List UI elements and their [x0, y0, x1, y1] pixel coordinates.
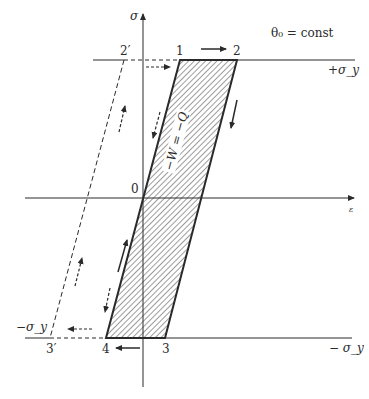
point-3-label: 3 [162, 342, 170, 356]
dashed-arrow-up-left-lower [75, 258, 82, 286]
strain-axis-label: ε [349, 205, 353, 214]
hysteresis-work-region [106, 60, 237, 338]
dashed-arrow-down-lower [105, 288, 110, 312]
point-2prime-label: 2′ [120, 44, 131, 58]
arrow-2-to-3 [231, 100, 237, 128]
upper-yield-label: +σ_y [328, 63, 359, 77]
point-4-label: 4 [102, 342, 110, 356]
shifted-elastic-line [50, 60, 124, 338]
point-2-label: 2 [233, 44, 241, 58]
point-1-label: 1 [176, 44, 184, 58]
temperature-annotation: θ₀ = const [271, 26, 334, 40]
lower-yield-label-left: −σ_y [16, 320, 47, 334]
point-origin-label: 0 [131, 182, 139, 196]
dashed-arrow-up-left-upper [119, 106, 125, 132]
lower-yield-label-right: − σ_y [329, 341, 364, 355]
point-3prime-label: 3′ [46, 342, 57, 356]
dashed-arrow-down-upper [153, 112, 160, 138]
sigma-axis-label: σ [130, 9, 139, 23]
stress-strain-cycle-diagram: σ ε θ₀ = const +σ_y − σ_y −σ_y 0 1 2 2′ … [0, 0, 369, 399]
